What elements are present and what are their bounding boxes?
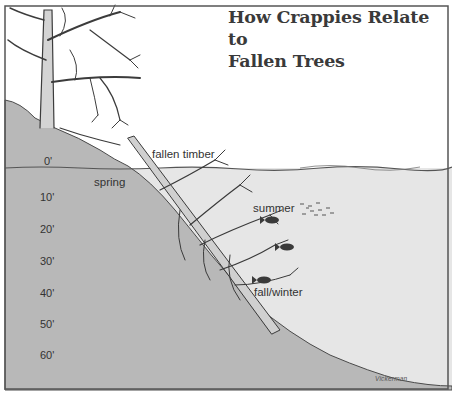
label-fallen-timber: fallen timber: [152, 148, 215, 160]
diagram-title: How Crappies Relate to Fallen Trees: [228, 6, 452, 72]
label-summer: summer: [253, 202, 295, 214]
label-fall-winter: fall/winter: [254, 286, 303, 298]
depth-20: 20': [40, 223, 54, 235]
depth-10: 10': [40, 191, 54, 203]
title-line-2: Fallen Trees: [228, 50, 452, 72]
label-spring: spring: [94, 176, 125, 188]
title-line-1: How Crappies Relate to: [228, 6, 452, 50]
depth-50: 50': [40, 318, 54, 330]
depth-40: 40': [40, 287, 54, 299]
depth-30: 30': [40, 255, 54, 267]
artist-signature: Vickerman: [375, 375, 407, 382]
diagram: How Crappies Relate to Fallen Trees fall…: [0, 0, 452, 394]
depth-0: 0': [44, 155, 52, 167]
depth-60: 60': [40, 349, 54, 361]
standing-tree-icon: [8, 5, 140, 128]
